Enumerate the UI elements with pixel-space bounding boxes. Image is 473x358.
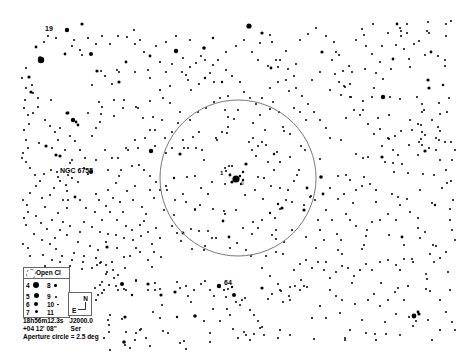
star (149, 345, 151, 347)
star (87, 112, 89, 114)
star (35, 185, 37, 187)
star (124, 267, 126, 269)
star (391, 193, 393, 195)
star (59, 127, 61, 129)
open-cluster-icon (26, 269, 36, 279)
star (64, 149, 66, 151)
star (431, 202, 433, 204)
star (273, 153, 275, 155)
star (428, 32, 430, 34)
star (29, 192, 31, 194)
star (80, 22, 83, 25)
star (239, 304, 241, 306)
star (115, 182, 117, 184)
star (367, 156, 369, 158)
compass: N E (68, 292, 92, 316)
star (298, 169, 300, 171)
star (225, 170, 227, 172)
star (359, 269, 361, 271)
mag-label-10: 10 (47, 301, 54, 308)
star (408, 144, 410, 146)
star (245, 334, 247, 336)
star (215, 137, 217, 139)
star (361, 248, 363, 250)
star (74, 196, 77, 199)
star (379, 261, 381, 263)
star (439, 113, 441, 115)
star (367, 299, 369, 301)
star (171, 131, 173, 133)
star (204, 59, 206, 61)
star (387, 32, 389, 34)
star (149, 77, 151, 79)
dec-value: +04 12' 08" (23, 325, 57, 332)
star (62, 199, 64, 201)
star (152, 311, 154, 313)
star (159, 288, 161, 290)
star (209, 289, 211, 291)
star (46, 228, 48, 230)
star (429, 253, 431, 255)
star (251, 149, 253, 151)
star (236, 242, 238, 244)
star (32, 112, 34, 114)
star (299, 263, 301, 265)
star (135, 247, 137, 249)
star (379, 128, 381, 130)
star (71, 118, 75, 122)
star (401, 163, 403, 165)
star (199, 204, 201, 206)
star (352, 202, 354, 204)
star (182, 139, 184, 141)
star (183, 147, 185, 149)
star (454, 149, 456, 151)
star (51, 147, 53, 149)
star (27, 147, 29, 149)
star (439, 257, 441, 259)
star (44, 206, 46, 208)
star (217, 59, 219, 61)
star (269, 275, 271, 277)
star (401, 236, 404, 239)
star (235, 209, 237, 211)
star (224, 109, 226, 111)
star (444, 65, 446, 67)
star (213, 101, 215, 103)
star (261, 97, 263, 99)
star (219, 97, 221, 99)
star (303, 285, 305, 287)
star (257, 320, 259, 322)
star (185, 201, 187, 203)
star (123, 99, 125, 101)
star (454, 239, 456, 241)
star (207, 193, 209, 195)
star (233, 118, 235, 120)
star (145, 337, 147, 339)
star (439, 329, 441, 331)
star (108, 324, 110, 326)
star (305, 259, 307, 261)
mag-7-dot (35, 310, 38, 313)
mag-5-dot (34, 293, 39, 298)
star (189, 119, 191, 121)
star (293, 269, 295, 271)
star (204, 77, 206, 79)
star (162, 330, 164, 332)
star (340, 94, 342, 96)
star (340, 239, 342, 241)
star (419, 237, 421, 239)
star (221, 81, 223, 83)
star (209, 72, 211, 74)
star (446, 111, 448, 113)
star (65, 28, 69, 32)
star (239, 175, 241, 177)
star (344, 337, 346, 339)
star (433, 261, 435, 263)
star (341, 299, 343, 301)
star (37, 106, 39, 108)
star (135, 332, 137, 334)
star (411, 258, 413, 260)
star (115, 234, 117, 236)
star (94, 287, 96, 289)
star (25, 224, 27, 226)
